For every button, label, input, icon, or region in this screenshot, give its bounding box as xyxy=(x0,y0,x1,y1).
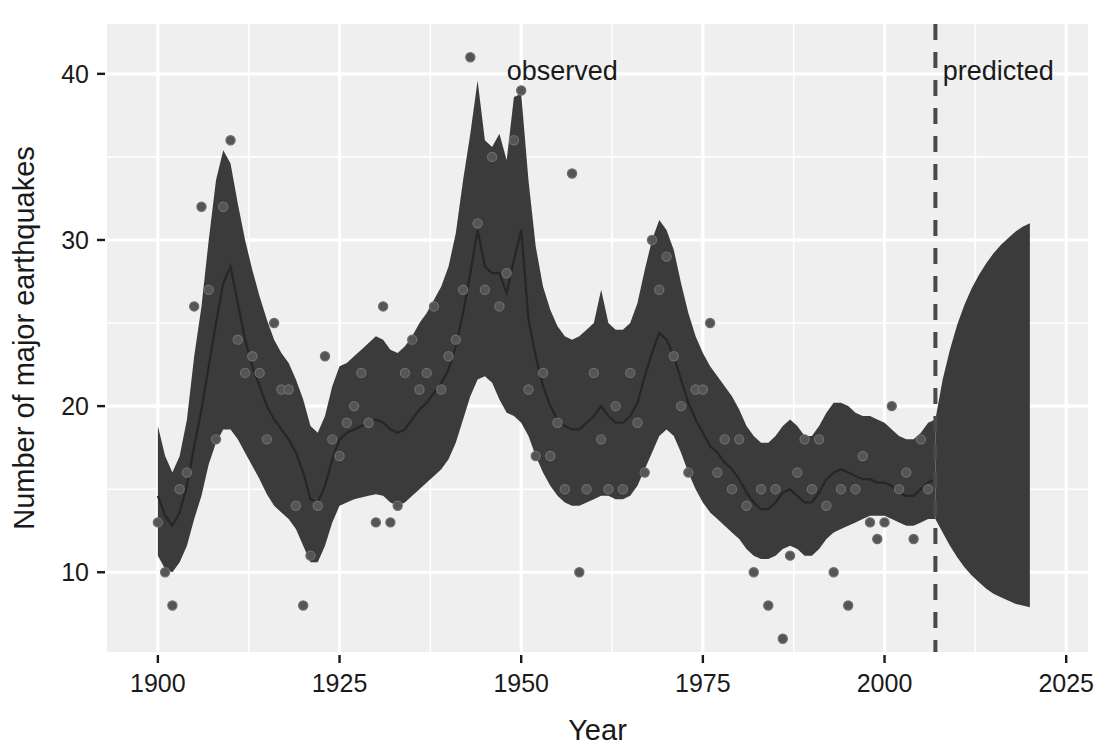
x-tick-label: 1950 xyxy=(493,669,549,697)
data-point xyxy=(749,568,758,577)
data-point xyxy=(902,468,911,477)
x-tick-label: 2025 xyxy=(1038,669,1094,697)
data-point xyxy=(291,501,300,510)
data-point xyxy=(240,368,249,377)
data-point xyxy=(451,335,460,344)
data-point xyxy=(248,352,257,361)
data-point xyxy=(829,568,838,577)
data-point xyxy=(720,435,729,444)
data-point xyxy=(822,501,831,510)
y-tick-label: 30 xyxy=(61,226,89,254)
data-point xyxy=(270,318,279,327)
data-point xyxy=(393,501,402,510)
x-tick-label: 1900 xyxy=(130,669,186,697)
data-point xyxy=(880,518,889,527)
data-point xyxy=(262,435,271,444)
data-point xyxy=(429,302,438,311)
data-point xyxy=(582,485,591,494)
chart-canvas: observedpredicted 1020304019001925195019… xyxy=(0,0,1115,753)
data-point xyxy=(466,53,475,62)
data-point xyxy=(444,352,453,361)
data-point xyxy=(662,252,671,261)
data-point xyxy=(328,435,337,444)
x-tick-label: 1975 xyxy=(675,669,731,697)
data-point xyxy=(197,202,206,211)
data-point xyxy=(676,402,685,411)
data-point xyxy=(422,368,431,377)
data-point xyxy=(633,418,642,427)
data-point xyxy=(575,568,584,577)
y-axis-title: Number of major earthquakes xyxy=(8,146,40,530)
data-point xyxy=(509,136,518,145)
data-point xyxy=(611,402,620,411)
data-point xyxy=(836,485,845,494)
earthquake-forecast-figure: observedpredicted 1020304019001925195019… xyxy=(0,0,1115,753)
data-point xyxy=(299,601,308,610)
data-point xyxy=(538,368,547,377)
data-point xyxy=(219,202,228,211)
data-point xyxy=(233,335,242,344)
data-point xyxy=(655,285,664,294)
data-point xyxy=(778,634,787,643)
data-point xyxy=(560,485,569,494)
data-point xyxy=(320,352,329,361)
data-point xyxy=(161,568,170,577)
data-point xyxy=(604,485,613,494)
data-point xyxy=(742,501,751,510)
data-point xyxy=(408,335,417,344)
data-point xyxy=(647,235,656,244)
data-point xyxy=(211,435,220,444)
data-point xyxy=(916,435,925,444)
data-point xyxy=(553,418,562,427)
data-point xyxy=(844,601,853,610)
data-point xyxy=(531,451,540,460)
data-point xyxy=(284,385,293,394)
data-point xyxy=(226,136,235,145)
data-point xyxy=(924,485,933,494)
data-point xyxy=(400,368,409,377)
data-point xyxy=(727,485,736,494)
data-point xyxy=(306,551,315,560)
data-point xyxy=(713,468,722,477)
data-point xyxy=(640,468,649,477)
data-point xyxy=(473,219,482,228)
data-point xyxy=(800,435,809,444)
data-point xyxy=(458,285,467,294)
data-point xyxy=(567,169,576,178)
data-point xyxy=(415,385,424,394)
data-point xyxy=(495,302,504,311)
data-point xyxy=(706,318,715,327)
data-point xyxy=(204,285,213,294)
data-point xyxy=(698,385,707,394)
data-point xyxy=(488,152,497,161)
data-point xyxy=(349,402,358,411)
data-point xyxy=(364,418,373,427)
data-point xyxy=(524,385,533,394)
data-point xyxy=(764,601,773,610)
data-point xyxy=(618,485,627,494)
data-point xyxy=(386,518,395,527)
data-point xyxy=(480,285,489,294)
data-point xyxy=(597,435,606,444)
data-point xyxy=(335,451,344,460)
x-tick-label: 1925 xyxy=(312,669,368,697)
chart-annotation: predicted xyxy=(943,56,1054,86)
x-axis-title: Year xyxy=(568,714,627,746)
data-point xyxy=(313,501,322,510)
data-point xyxy=(342,418,351,427)
data-point xyxy=(865,518,874,527)
data-point xyxy=(175,485,184,494)
data-point xyxy=(858,451,867,460)
data-point xyxy=(168,601,177,610)
chart-annotation: observed xyxy=(507,56,618,86)
x-tick-label: 2000 xyxy=(857,669,913,697)
y-tick-label: 20 xyxy=(61,392,89,420)
data-point xyxy=(517,86,526,95)
data-point xyxy=(815,435,824,444)
data-point xyxy=(807,485,816,494)
data-point xyxy=(379,302,388,311)
data-point xyxy=(909,534,918,543)
data-point xyxy=(756,485,765,494)
data-point xyxy=(437,385,446,394)
data-point xyxy=(873,534,882,543)
